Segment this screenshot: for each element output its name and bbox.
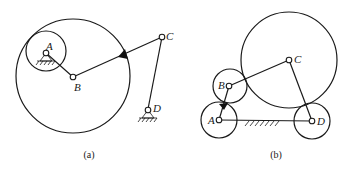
joint-c-a (159, 34, 165, 40)
ground-hatch-b (245, 121, 279, 126)
joint-d-a (145, 107, 151, 113)
link-cd-b (289, 60, 312, 121)
label-c-b: C (294, 53, 302, 65)
link-bc-b (229, 60, 289, 86)
mechanism-diagrams: A B C D (a) A B (0, 0, 354, 170)
joint-c-b (286, 57, 292, 63)
label-d-b: D (316, 115, 325, 127)
caption-a: (a) (83, 149, 94, 161)
label-d-a: D (152, 102, 161, 114)
caption-b: (b) (270, 149, 282, 161)
wedge-icon-a (118, 49, 128, 59)
figure-b: A B C D (b) (201, 12, 337, 161)
link-bc-a (73, 37, 162, 77)
link-cd-a (148, 37, 162, 109)
ground-line-ad (219, 120, 312, 121)
label-a-b: A (207, 114, 215, 126)
joint-d-b (309, 118, 315, 124)
wedge-icon-b (219, 103, 228, 110)
label-b-b: B (218, 79, 225, 91)
joint-b-b (226, 83, 232, 89)
joint-a-b (216, 117, 222, 123)
label-b-a: B (74, 81, 81, 93)
joint-b-a (70, 74, 76, 80)
label-a-a: A (45, 40, 53, 52)
link-ab-a (46, 53, 73, 77)
figure-a: A B C D (a) (16, 19, 174, 161)
label-c-a: C (166, 30, 174, 42)
